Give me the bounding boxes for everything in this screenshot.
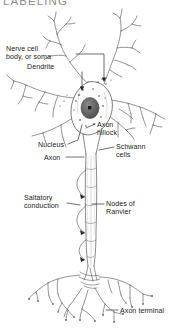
axon-shaft bbox=[85, 154, 97, 266]
dendrite-branch-left bbox=[7, 75, 77, 117]
saltatory-conduction-arcs bbox=[77, 170, 86, 260]
label-saltatory-conduction: Saltatory conduction bbox=[24, 194, 59, 210]
label-axon: Axon bbox=[44, 154, 60, 162]
label-nerve-cell-body: Nerve cell body, or soma bbox=[6, 45, 51, 61]
label-axon-terminal: Axon terminal bbox=[120, 307, 164, 315]
axon-hillock-shape bbox=[83, 134, 86, 154]
neuron-labeling-figure: LABELING bbox=[0, 0, 182, 328]
label-nodes-of-ranvier: Nodes of Ranvier bbox=[106, 200, 135, 216]
leader-saltatory bbox=[67, 203, 80, 205]
leader-schwann bbox=[99, 147, 114, 150]
label-dendrite: Dendrite bbox=[27, 63, 54, 71]
label-nucleus: Nucleus bbox=[38, 141, 64, 149]
saltatory-arrowheads bbox=[80, 194, 85, 262]
label-axon-hillock: Axon hillock bbox=[97, 121, 117, 137]
dendrite-branch-upper-right bbox=[104, 9, 141, 84]
label-schwann-cells: Schwann cells bbox=[116, 143, 146, 159]
